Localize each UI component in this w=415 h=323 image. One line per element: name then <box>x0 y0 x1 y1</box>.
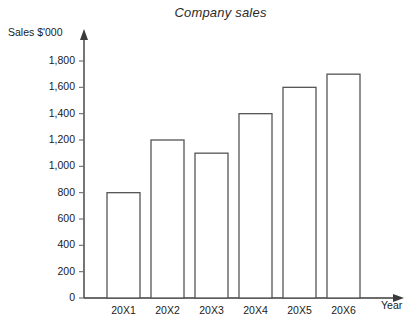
y-tick-label: 1,600 <box>21 80 75 92</box>
bar-20X4 <box>239 114 272 298</box>
x-tick-label: 20X2 <box>143 304 192 316</box>
x-axis-arrowhead <box>393 294 404 302</box>
y-tick-label: 200 <box>21 265 75 277</box>
x-tick-label: 20X5 <box>275 304 324 316</box>
x-tick-label: 20X4 <box>231 304 280 316</box>
bar-20X5 <box>283 87 316 298</box>
y-tick-label: 600 <box>21 212 75 224</box>
y-tick-label: 1,800 <box>21 54 75 66</box>
bar-20X3 <box>195 153 228 298</box>
y-tick-label: 1,200 <box>21 133 75 145</box>
bar-series <box>107 74 360 298</box>
y-tick-label: 0 <box>21 291 75 303</box>
y-tick-label: 400 <box>21 238 75 250</box>
bar-20X1 <box>107 193 140 298</box>
y-axis-tick-marks <box>79 61 84 298</box>
bar-20X6 <box>327 74 360 298</box>
y-tick-label: 1,400 <box>21 107 75 119</box>
y-tick-label: 800 <box>21 186 75 198</box>
y-axis-arrowhead <box>80 29 88 40</box>
x-tick-label: 20X1 <box>99 304 148 316</box>
x-tick-label: 20X6 <box>319 304 368 316</box>
y-tick-label: 1,000 <box>21 159 75 171</box>
x-tick-label: 20X3 <box>187 304 236 316</box>
bar-chart: Company sales Sales $'000 Year 020040060… <box>0 0 415 323</box>
bar-20X2 <box>151 140 184 298</box>
